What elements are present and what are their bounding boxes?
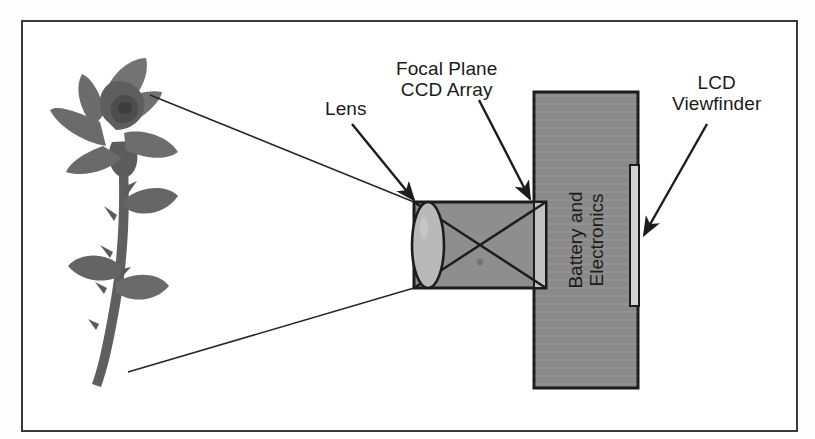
ray-top [150, 95, 414, 202]
label-lens: Lens [325, 98, 367, 119]
ray-bottom [128, 288, 414, 372]
arrow-to-lcd-viewfinder [644, 124, 707, 235]
arrow-to-ccd-array [479, 100, 530, 199]
light-ray-lines [128, 95, 414, 372]
label-battery-and-electronics-text: Battery and Electronics [565, 191, 607, 288]
lens-housing [412, 202, 546, 288]
lens-element [412, 202, 444, 288]
figure-canvas: Lens Focal Plane CCD Array LCD Viewfinde… [0, 0, 815, 439]
label-battery-and-electronics: Battery and Electronics [534, 92, 638, 388]
rose-illustration [50, 58, 178, 387]
label-focal-plane-ccd-array: Focal Plane CCD Array [396, 58, 497, 100]
label-lcd-viewfinder: LCD Viewfinder [672, 72, 761, 114]
